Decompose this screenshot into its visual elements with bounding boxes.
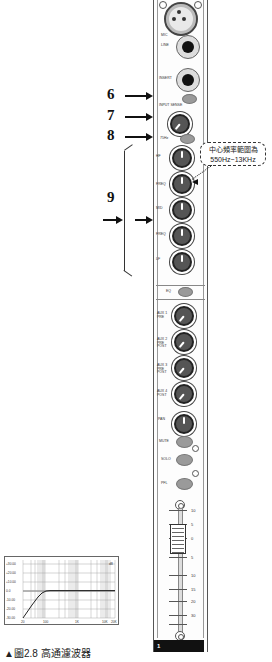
mute-button[interactable] — [176, 436, 193, 448]
lowcut-label: 75Hz — [160, 137, 168, 141]
aux2-knob[interactable] — [174, 332, 194, 352]
aux3-knob[interactable] — [174, 358, 194, 378]
figure-caption: ▲圖2.8 高通濾波器 — [4, 645, 91, 660]
lowcut-switch[interactable] — [180, 134, 195, 144]
eq-lf-label: LF — [156, 258, 160, 262]
eq-section-bracket — [124, 151, 137, 271]
line-label: LINE — [161, 44, 169, 48]
svg-text:+10.00: +10.00 — [6, 580, 16, 584]
eq-switch-label: EQ — [166, 290, 171, 294]
eq-hf-knob[interactable] — [172, 148, 192, 168]
aux2-label: AUX 2 PRE POST — [157, 338, 169, 349]
frequency-range-callout: 中心頻率範圍為 550Hz~13KHz — [200, 142, 266, 166]
pfl-button[interactable] — [176, 478, 193, 490]
eq-freq-label: FREQ — [156, 183, 166, 187]
insert-jack[interactable] — [176, 68, 200, 92]
callout-number-6: 6 — [107, 86, 115, 103]
callout-arrow-icon — [103, 219, 117, 221]
divider — [156, 299, 205, 300]
screw-icon — [159, 1, 167, 9]
svg-text:-30.00: -30.00 — [6, 616, 15, 620]
hpf-response-chart: +30.00 +20.00 +10.00 0.0 -10.00 -20.00 -… — [4, 556, 119, 625]
pan-knob[interactable] — [174, 414, 194, 434]
svg-text:20: 20 — [21, 620, 25, 624]
eq-hf-label: HF — [156, 155, 161, 159]
bubble-line-1: 中心頻率範圍為 — [201, 145, 265, 155]
svg-text:20K: 20K — [111, 620, 118, 624]
aux3-label: AUX 3 PRE POST — [157, 364, 169, 375]
callout-number-9: 9 — [107, 189, 115, 206]
eq-lmid-freq-knob[interactable] — [172, 226, 192, 246]
eq-switch[interactable] — [178, 287, 193, 297]
eq-mid-knob[interactable] — [172, 200, 192, 220]
pfl-label: PFL — [161, 482, 167, 486]
callout-arrow-icon — [125, 116, 147, 118]
callout-arrow-icon — [125, 136, 147, 138]
aux4-label: AUX 4 POST — [157, 390, 169, 397]
aux4-knob[interactable] — [174, 384, 194, 404]
eq-freq2-label: FREQ — [156, 233, 166, 237]
aux1-knob[interactable] — [174, 306, 194, 326]
svg-text:100: 100 — [43, 620, 49, 624]
input-sense-label: INPUT SENSE — [159, 104, 182, 108]
solo-button[interactable] — [176, 454, 193, 466]
pfl-led — [192, 470, 199, 477]
screw-icon — [194, 1, 202, 9]
aux1-label: AUX 1 PRE — [157, 312, 169, 319]
line-input-jack[interactable] — [176, 35, 200, 59]
svg-text:-10.00: -10.00 — [6, 598, 15, 602]
svg-text:10K: 10K — [102, 620, 109, 624]
divider — [156, 285, 205, 286]
pad-switch[interactable] — [182, 94, 197, 104]
mute-led — [192, 445, 199, 452]
svg-text:-20.00: -20.00 — [6, 607, 15, 611]
svg-text:dB: dB — [109, 562, 113, 566]
svg-text:+30.00: +30.00 — [6, 562, 16, 566]
svg-text:0.0: 0.0 — [6, 589, 11, 593]
mute-label: MUTE — [159, 440, 169, 444]
callout-number-7: 7 — [107, 107, 115, 124]
svg-text:1K: 1K — [75, 620, 80, 624]
channel-number-tag: 1 — [154, 640, 204, 652]
eq-lf-knob[interactable] — [172, 252, 192, 272]
insert-label: INSERT — [159, 77, 172, 81]
eq-hmid-freq-knob[interactable] — [172, 174, 192, 194]
channel-strip: MIC LINE INSERT INPUT SENSE 75Hz HF FREQ… — [153, 0, 208, 652]
callout-pointer-arrow-icon — [192, 179, 198, 185]
bubble-line-2: 550Hz~13KHz — [201, 155, 265, 165]
xlr-mic-input[interactable] — [164, 2, 198, 36]
solo-label: SOLO — [161, 458, 171, 462]
pan-label: PAN — [158, 418, 165, 422]
mic-label: MIC — [161, 34, 167, 38]
eq-mid-label: MID — [156, 207, 162, 211]
channel-fader-knob[interactable] — [170, 524, 186, 554]
svg-text:+20.00: +20.00 — [6, 571, 16, 575]
callout-arrow-icon — [125, 95, 147, 97]
callout-number-8: 8 — [107, 127, 115, 144]
gain-knob[interactable] — [170, 114, 190, 134]
